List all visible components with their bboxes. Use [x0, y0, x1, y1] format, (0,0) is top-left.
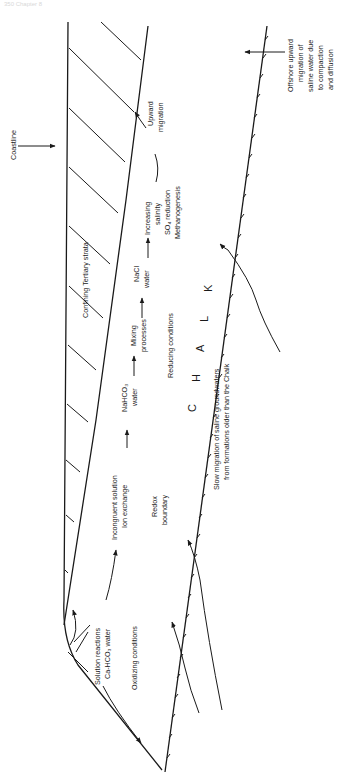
page-header: 350 Chapter 8 [4, 1, 43, 7]
svg-text:saline water due: saline water due [306, 40, 315, 92]
reducing-conditions-label: Reducing conditions [166, 313, 175, 378]
confining-strata-label: Confining Tertiary strata [81, 242, 90, 318]
nahco3-water-label: NaHCO₃ water [120, 384, 139, 412]
incongruent-solution-label: Incongruent solution Ion exchange [110, 475, 129, 540]
nacl-water-label: NaCl water [132, 266, 151, 289]
svg-text:NaHCO₃: NaHCO₃ [120, 384, 129, 412]
increasing-salinity-label: Increasing salinity SO₄ reduction Methan… [143, 186, 182, 239]
svg-text:Incongruent solution: Incongruent solution [110, 475, 119, 540]
svg-text:A: A [194, 344, 206, 352]
svg-text:Solution reactions: Solution reactions [93, 627, 102, 685]
svg-text:to compaction: to compaction [316, 45, 325, 90]
coastline-marker: Coastline [9, 130, 55, 160]
chalk-aquifer-hydrochemistry-diagram: 350 Chapter 8 [0, 0, 340, 783]
svg-text:boundary: boundary [160, 495, 169, 525]
svg-text:from formations older than the: from formations older than the Chalk [222, 363, 231, 480]
svg-text:L: L [198, 316, 210, 322]
oxidizing-conditions-label: Oxidizing conditions [130, 626, 139, 690]
svg-text:water: water [130, 388, 139, 407]
slow-migration-label: Slow migration of saline groundwaters fr… [212, 363, 231, 490]
svg-text:processes: processes [139, 319, 148, 352]
mixing-processes-label: Mixing processes [129, 319, 148, 352]
svg-text:NaCl: NaCl [132, 266, 141, 282]
upward-migration: Upward migration [135, 101, 165, 182]
svg-text:Ca-HCO₃ water: Ca-HCO₃ water [103, 628, 112, 679]
svg-text:H: H [190, 374, 202, 382]
svg-text:C: C [186, 404, 198, 412]
svg-text:water: water [142, 270, 151, 289]
svg-text:K: K [202, 284, 214, 292]
svg-text:Increasing: Increasing [143, 202, 152, 235]
svg-text:Upward: Upward [146, 101, 155, 126]
redox-boundary-label: Redox boundary [150, 495, 169, 525]
svg-text:Slow migration of saline groun: Slow migration of saline groundwaters [212, 368, 221, 490]
svg-text:migration of: migration of [296, 44, 305, 82]
svg-text:migration: migration [156, 102, 165, 132]
svg-text:and diffusion: and diffusion [326, 49, 335, 90]
land-surface-line [64, 22, 162, 770]
svg-text:Offshore upward: Offshore upward [286, 39, 295, 92]
svg-text:SO₄ reduction: SO₄ reduction [163, 190, 172, 235]
tertiary-hatching [65, 22, 141, 573]
svg-text:Redox: Redox [150, 496, 159, 517]
chalk-label: C H A L K [186, 284, 214, 412]
svg-text:Methanogenesis: Methanogenesis [173, 186, 182, 239]
svg-text:Mixing: Mixing [129, 325, 138, 346]
svg-text:salinity: salinity [153, 203, 162, 225]
svg-text:Ion exchange: Ion exchange [120, 485, 129, 528]
coastline-label: Coastline [9, 130, 18, 160]
